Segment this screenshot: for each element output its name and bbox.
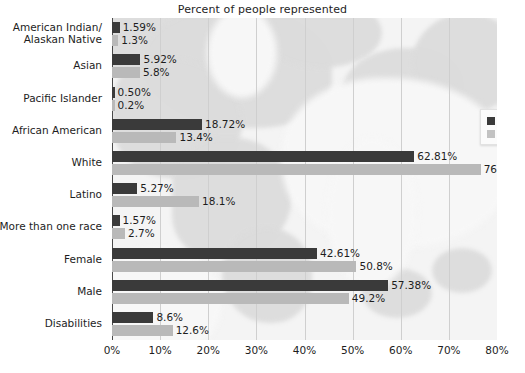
y-axis-label: More than one race <box>0 220 108 232</box>
bar-row: 1.57%2.7% <box>112 215 497 239</box>
legend-item: U.S. population <box>487 127 497 140</box>
bar-bureaucracy <box>112 183 137 194</box>
bar-value-label: 0.50% <box>118 87 151 98</box>
bar-chart: Percent of people represented American I… <box>0 0 525 373</box>
bar-value-label: 1.3% <box>121 35 148 46</box>
bar-us-population <box>112 196 199 207</box>
legend: Bureaucracy U.S. population <box>480 109 497 145</box>
bar-value-label: 50.8% <box>359 261 392 272</box>
bar-value-label: 1.59% <box>123 22 156 33</box>
bar-bureaucracy <box>112 280 388 291</box>
y-axis-label: American Indian/ Alaskan Native <box>0 21 108 45</box>
bar-us-population <box>112 132 176 143</box>
bar-bureaucracy <box>112 87 115 98</box>
y-axis-label: White <box>0 156 108 168</box>
bar-value-label: 18.72% <box>205 119 245 130</box>
chart-title: Percent of people represented <box>0 3 525 16</box>
bar-us-population <box>112 325 173 336</box>
bar-us-population <box>112 35 118 46</box>
bar-value-label: 18.1% <box>202 196 235 207</box>
x-axis-tick: 60% <box>389 344 412 356</box>
bar-us-population <box>112 228 125 239</box>
y-axis-label: Female <box>0 253 108 265</box>
bar-row: 62.81%76.6% <box>112 151 497 175</box>
bar-value-label: 1.57% <box>123 215 156 226</box>
bar-value-label: 62.81% <box>417 151 457 162</box>
bar-value-label: 8.6% <box>156 312 183 323</box>
bar-value-label: 76.6% <box>484 164 497 175</box>
bar-value-label: 0.2% <box>118 100 145 111</box>
bar-row: 57.38%49.2% <box>112 280 497 304</box>
legend-item: Bureaucracy <box>487 114 497 127</box>
legend-swatch-us-population-icon <box>487 130 495 138</box>
x-axis-tick-labels: 0%10%20%30%40%50%60%70%80% <box>0 344 525 360</box>
bar-row: 18.72%13.4% <box>112 119 497 143</box>
y-axis-label: African American <box>0 124 108 136</box>
x-axis-tick: 70% <box>437 344 460 356</box>
bar-value-label: 5.27% <box>140 183 173 194</box>
bar-row: 0.50%0.2% <box>112 87 497 111</box>
x-axis-tick: 0% <box>104 344 121 356</box>
x-axis-tick: 80% <box>485 344 508 356</box>
bar-us-population <box>112 293 349 304</box>
bar-value-label: 49.2% <box>352 293 385 304</box>
bar-row: 42.61%50.8% <box>112 248 497 272</box>
bar-bureaucracy <box>112 54 140 65</box>
x-axis-tick: 20% <box>197 344 220 356</box>
bar-value-label: 42.61% <box>320 248 360 259</box>
bar-us-population <box>112 261 356 272</box>
bar-value-label: 2.7% <box>128 228 155 239</box>
bar-bureaucracy <box>112 22 120 33</box>
bar-us-population <box>112 100 115 111</box>
bar-value-label: 5.8% <box>143 67 170 78</box>
bar-us-population <box>112 67 140 78</box>
x-axis-tick: 30% <box>245 344 268 356</box>
bar-bureaucracy <box>112 119 202 130</box>
bar-rows: 1.59%1.3%5.92%5.8%0.50%0.2%18.72%13.4%62… <box>112 18 497 340</box>
bar-row: 1.59%1.3% <box>112 22 497 46</box>
bar-bureaucracy <box>112 248 317 259</box>
y-axis-label: Disabilities <box>0 317 108 329</box>
bar-row: 5.92%5.8% <box>112 54 497 78</box>
bar-bureaucracy <box>112 215 120 226</box>
bar-value-label: 57.38% <box>391 280 431 291</box>
plot-area: 1.59%1.3%5.92%5.8%0.50%0.2%18.72%13.4%62… <box>112 18 497 340</box>
bar-row: 5.27%18.1% <box>112 183 497 207</box>
bar-bureaucracy <box>112 151 414 162</box>
y-axis-label: Pacific Islander <box>0 92 108 104</box>
bar-us-population <box>112 164 481 175</box>
bar-value-label: 12.6% <box>176 325 209 336</box>
bar-row: 8.6%12.6% <box>112 312 497 336</box>
bar-value-label: 13.4% <box>179 132 212 143</box>
y-axis-label: Male <box>0 285 108 297</box>
y-axis-label: Latino <box>0 188 108 200</box>
x-axis-tick: 10% <box>148 344 171 356</box>
y-axis-category-labels: American Indian/ Alaskan NativeAsianPaci… <box>0 18 108 340</box>
y-axis-label: Asian <box>0 59 108 71</box>
bar-value-label: 5.92% <box>143 54 176 65</box>
x-axis-tick: 50% <box>341 344 364 356</box>
legend-swatch-bureaucracy-icon <box>487 117 495 125</box>
bar-bureaucracy <box>112 312 153 323</box>
x-axis-tick: 40% <box>293 344 316 356</box>
